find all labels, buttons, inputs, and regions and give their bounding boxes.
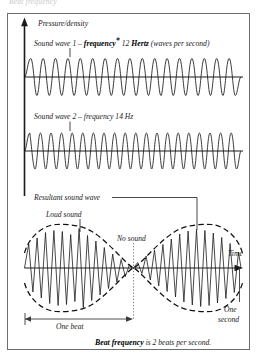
- caption-bold: Beat frequency: [94, 338, 144, 347]
- wave-1-label-bold-frequency: frequency: [84, 39, 117, 48]
- no-sound-label: No sound: [116, 234, 146, 243]
- wave-1-label: Sound wave 1 – frequency* 12 Hertz (wave…: [34, 36, 210, 47]
- one-beat-label: One beat: [56, 322, 85, 331]
- y-axis-label: Pressure/density: [37, 19, 89, 28]
- wave-1-label-bold-hertz: Hertz: [130, 39, 149, 48]
- resultant-wave-label: Resultant sound wave: [33, 193, 101, 202]
- resultant-leader: [112, 198, 197, 231]
- wave-1-label-prefix: Sound wave 1 –: [34, 39, 84, 48]
- loud-sound-label: Loud sound: [45, 210, 82, 219]
- one-second-label-line2: second: [218, 315, 239, 324]
- y-axis: [21, 18, 28, 197]
- wave-1-group: [25, 59, 244, 96]
- wave-1-label-suffix: (waves per second): [149, 39, 210, 48]
- one-second-label-line1: One: [224, 305, 237, 314]
- wave-1-label-mid: 12: [120, 39, 131, 48]
- wave-2-group: [25, 133, 244, 169]
- caption-rest: is 2 beats per second.: [144, 338, 212, 347]
- caption: Beat frequency is 2 beats per second.: [94, 338, 211, 347]
- wave-2-label: Sound wave 2 – frequency 14 Hz: [34, 112, 133, 121]
- beat-frequency-diagram: Pressure/density Sound wave 1 – frequenc…: [0, 0, 256, 359]
